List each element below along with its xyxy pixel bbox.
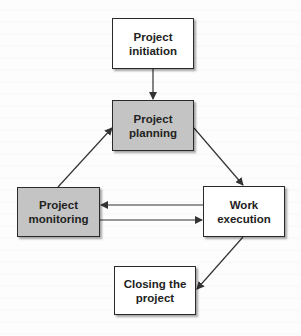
node-label-line2: project xyxy=(124,291,187,305)
node-work-execution: Work execution xyxy=(203,186,285,237)
node-label-line2: planning xyxy=(129,126,177,140)
node-label-line1: Closing the xyxy=(124,277,187,291)
node-label-line2: execution xyxy=(217,212,271,226)
node-project-monitoring: Project monitoring xyxy=(17,187,100,237)
arrow-planning-to-execution xyxy=(194,128,243,185)
node-label-line2: initiation xyxy=(129,44,177,58)
node-label-line1: Project xyxy=(129,112,177,126)
node-label-line1: Project xyxy=(28,198,88,212)
arrow-monitoring-to-planning xyxy=(58,128,112,187)
node-label-line1: Work xyxy=(217,198,271,212)
node-label-line2: monitoring xyxy=(28,212,88,226)
node-closing-the-project: Closing the project xyxy=(114,266,196,315)
arrow-execution-to-closing xyxy=(197,237,243,289)
node-label-line1: Project xyxy=(129,30,177,44)
node-project-initiation: Project initiation xyxy=(112,18,194,69)
node-project-planning: Project planning xyxy=(112,100,194,151)
